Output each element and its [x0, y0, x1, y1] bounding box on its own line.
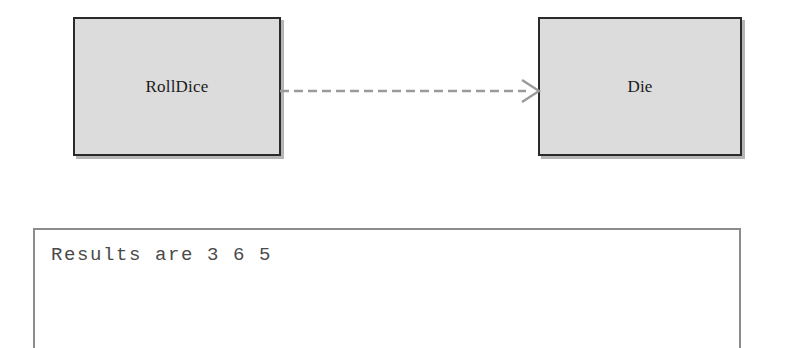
uml-class-name-die: Die — [627, 78, 652, 95]
uml-class-diagram: RollDice Die — [0, 0, 786, 200]
uml-class-box-rolldice[interactable]: RollDice — [73, 17, 281, 156]
console-output-line: Results are 3 6 5 — [51, 244, 272, 268]
console-output-panel[interactable]: Results are 3 6 5 — [33, 228, 741, 348]
uml-class-box-die[interactable]: Die — [538, 17, 742, 156]
uml-class-name-rolldice: RollDice — [146, 78, 209, 95]
dependency-arrow-icon[interactable] — [278, 76, 546, 110]
